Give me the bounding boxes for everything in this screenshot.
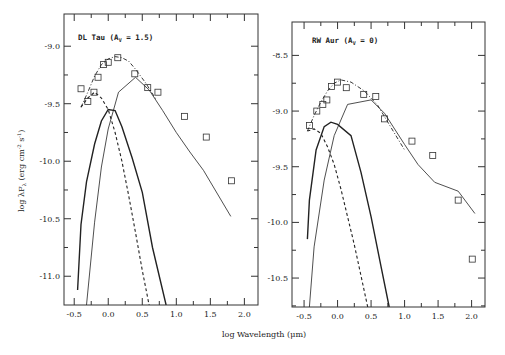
observed-point: [343, 85, 349, 91]
x-tick-label: 1.5: [432, 312, 445, 321]
observed-point: [155, 89, 161, 95]
x-tick-label: 1.5: [204, 310, 217, 319]
y-tick-label: -10.5: [267, 274, 288, 283]
x-tick-label: 1.0: [170, 310, 183, 319]
x-tick-label: 1.0: [398, 312, 411, 321]
x-tick-label: 0.0: [331, 312, 344, 321]
observed-point: [203, 134, 209, 140]
stellar-photosphere-curve: [307, 129, 367, 307]
y-tick-label: -11.0: [39, 272, 60, 281]
y-tick-label: -10.5: [39, 215, 60, 224]
right-panel-rw-aur: -0.50.00.51.01.52.0-8.5-9.0-9.5-10.0-10.…: [267, 22, 485, 321]
x-tick-label: 0.0: [102, 310, 115, 319]
observed-point: [430, 153, 436, 159]
sed-figure: -0.50.00.51.01.52.0-9.0-9.5-10.0-10.5-11…: [0, 0, 505, 355]
y-tick-label: -8.5: [273, 51, 288, 60]
x-tick-label: 0.5: [365, 312, 378, 321]
accretion-shock-curve: [307, 122, 389, 307]
disk-curve: [309, 100, 475, 307]
observed-point: [78, 86, 84, 92]
observed-point: [306, 123, 312, 129]
y-tick-label: -10.0: [39, 157, 60, 166]
left-panel-dl-tau: -0.50.00.51.01.52.0-9.0-9.5-10.0-10.5-11…: [39, 14, 258, 319]
y-tick-label: -9.5: [273, 163, 288, 172]
observed-point: [409, 138, 415, 144]
y-tick-label: -9.5: [45, 100, 60, 109]
observed-point: [115, 55, 121, 61]
y-tick-label: -10.0: [267, 218, 288, 227]
x-tick-label: -0.5: [296, 312, 311, 321]
accretion-shock-curve: [78, 110, 167, 306]
left-panel-title: DL Tau (AV = 1.5): [78, 33, 153, 43]
stellar-photosphere-curve: [81, 92, 149, 305]
x-tick-label: 2.0: [238, 310, 251, 319]
observed-point: [373, 94, 379, 100]
observed-point: [324, 97, 330, 103]
x-axis-title: log Wavelength (μm): [222, 330, 306, 339]
observed-point: [314, 108, 320, 114]
observed-point: [455, 197, 461, 203]
total-model-curve: [81, 57, 156, 108]
plot-frame: [292, 22, 485, 307]
x-tick-label: -0.5: [66, 310, 81, 319]
x-tick-label: 2.0: [465, 312, 478, 321]
observed-point: [320, 101, 326, 107]
observed-point: [228, 178, 234, 184]
right-panel-title: RW Aur (AV = 0): [312, 36, 378, 46]
y-tick-label: -9.0: [273, 107, 288, 116]
total-model-curve: [307, 80, 404, 150]
observed-point: [469, 256, 475, 262]
observed-point: [181, 113, 187, 119]
y-tick-label: -9.0: [45, 42, 60, 51]
x-tick-label: 0.5: [136, 310, 149, 319]
observed-point: [95, 74, 101, 80]
y-axis-title: log λFλ (erg cm-2 s-1): [16, 130, 27, 212]
plot-frame: [64, 14, 258, 305]
